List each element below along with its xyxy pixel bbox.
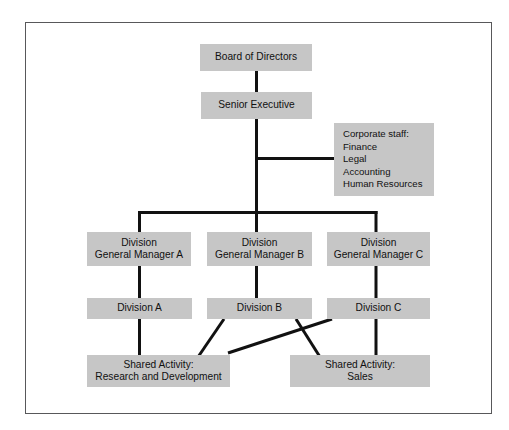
node-division-a[interactable]: Division A [87,298,192,319]
node-board-of-directors[interactable]: Board of Directors [200,44,312,71]
node-shared-activity-sales[interactable]: Shared Activity: Sales [290,355,430,387]
org-chart-diagram: Board of Directors Senior Executive Corp… [0,0,509,430]
node-division-general-manager-c[interactable]: Division General Manager C [327,232,430,266]
node-division-b[interactable]: Division B [207,298,312,319]
node-division-general-manager-c-label: Division General Manager C [334,237,423,261]
node-corporate-staff-label: Corporate staff: Finance Legal Accountin… [343,128,422,190]
node-division-b-label: Division B [237,302,282,314]
node-shared-activity-research-and-development-label: Shared Activity: Research and Developmen… [95,359,221,383]
edge-div-c-to-shared-rd [228,319,332,353]
node-board-of-directors-label: Board of Directors [215,51,297,63]
node-division-c[interactable]: Division C [327,298,430,319]
node-senior-executive-label: Senior Executive [218,99,294,111]
node-division-a-label: Division A [117,302,162,314]
edge-div-b-to-shared-rd [198,319,224,357]
node-division-general-manager-a[interactable]: Division General Manager A [87,232,191,266]
node-division-c-label: Division C [356,302,402,314]
node-corporate-staff[interactable]: Corporate staff: Finance Legal Accountin… [334,123,434,196]
node-senior-executive[interactable]: Senior Executive [201,92,312,119]
node-shared-activity-sales-label: Shared Activity: Sales [325,359,395,383]
node-division-general-manager-a-label: Division General Manager A [95,237,183,261]
node-shared-activity-research-and-development[interactable]: Shared Activity: Research and Developmen… [87,355,230,387]
node-division-general-manager-b-label: Division General Manager B [215,237,304,261]
node-division-general-manager-b[interactable]: Division General Manager B [207,232,312,266]
